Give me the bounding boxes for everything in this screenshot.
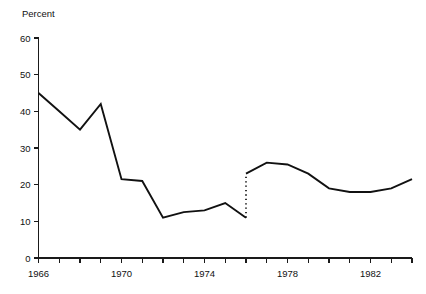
y-axis-tick-label: 0	[25, 253, 30, 264]
y-axis-tick-label: 20	[20, 179, 31, 190]
x-axis-tick-labels: 19661970197419781982	[28, 268, 381, 279]
y-axis-tick-label: 40	[20, 106, 31, 117]
data-series-lines	[39, 93, 413, 218]
data-line-segment-1	[39, 93, 247, 218]
chart-container: Percent 0102030405060 196619701974197819…	[0, 0, 426, 294]
y-axis-title: Percent	[22, 8, 55, 19]
percent-line-chart: Percent 0102030405060 196619701974197819…	[0, 0, 426, 294]
x-axis-tick-label: 1978	[277, 268, 298, 279]
y-axis-ticks	[34, 38, 39, 258]
y-axis-tick-label: 60	[20, 33, 31, 44]
x-axis-tick-label: 1974	[194, 268, 215, 279]
x-axis-ticks	[39, 258, 413, 263]
y-axis-tick-labels: 0102030405060	[20, 33, 31, 264]
y-axis-tick-label: 30	[20, 143, 31, 154]
data-line-segment-2	[246, 163, 412, 192]
x-axis-tick-label: 1982	[360, 268, 381, 279]
axis-lines	[39, 38, 413, 258]
x-axis-tick-label: 1970	[111, 268, 132, 279]
x-axis-tick-label: 1966	[28, 268, 49, 279]
y-axis-title-text: Percent	[22, 8, 55, 19]
y-axis-tick-label: 50	[20, 69, 31, 80]
chart-axes	[39, 38, 413, 258]
y-axis-tick-label: 10	[20, 216, 31, 227]
